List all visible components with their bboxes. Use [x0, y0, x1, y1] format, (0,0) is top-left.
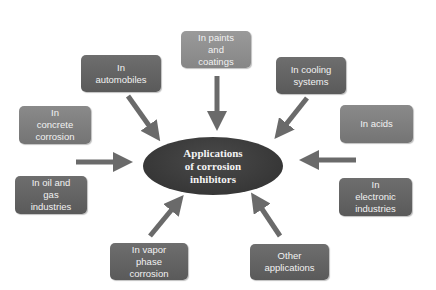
arrow-other — [256, 200, 280, 236]
node-label: Other applications — [264, 250, 314, 274]
node-label: In acids — [360, 118, 393, 130]
node-other-applications: Other applications — [250, 244, 329, 280]
node-electronic-industries: In electronic industries — [339, 178, 412, 216]
node-acids: In acids — [340, 105, 413, 143]
center-label: Applications of corrosion inhibitors — [183, 147, 242, 186]
node-oil-and-gas-industries: In oil and gas industries — [15, 176, 87, 214]
node-label: In vapor phase corrosion — [129, 244, 168, 280]
node-label: In concrete corrosion — [35, 107, 74, 143]
node-paints-and-coatings: In paints and coatings — [181, 31, 251, 68]
node-cooling-systems: In cooling systems — [276, 57, 346, 94]
arrow-automobiles — [128, 96, 155, 134]
node-vapor-phase-corrosion: In vapor phase corrosion — [110, 243, 188, 280]
center-node-applications: Applications of corrosion inhibitors — [143, 137, 283, 195]
node-automobiles: In automobiles — [81, 55, 161, 92]
node-concrete-corrosion: In concrete corrosion — [19, 106, 91, 144]
node-label: In cooling systems — [291, 64, 332, 88]
node-label: In automobiles — [95, 62, 146, 86]
arrow-cooling — [280, 98, 307, 132]
arrow-vapor — [150, 202, 178, 236]
node-label: In electronic industries — [355, 179, 396, 215]
node-label: In oil and gas industries — [31, 177, 72, 213]
node-label: In paints and coatings — [198, 32, 234, 68]
